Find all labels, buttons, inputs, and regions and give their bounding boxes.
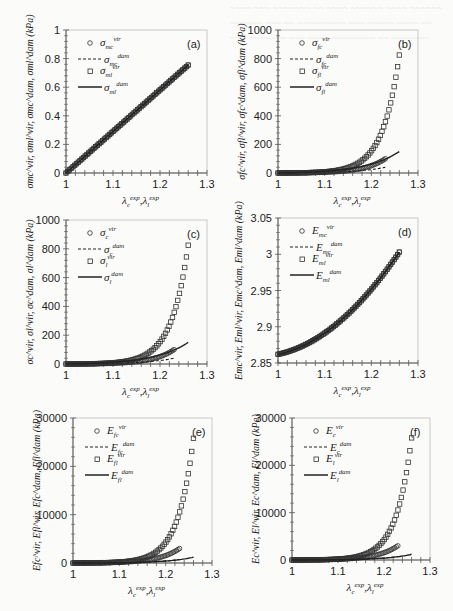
x-axis-label: λcexp,λlexp (346, 581, 384, 596)
svg-text:σfcvir: σfcvir (312, 35, 330, 50)
svg-text:Emcvir: Emcvir (311, 223, 335, 238)
svg-text:Elvir: Elvir (325, 451, 343, 466)
y-tick-label: 600 (254, 81, 272, 93)
y-tick-label: 0 (54, 358, 60, 370)
svg-text:σfldam: σfldam (316, 80, 337, 95)
svg-text:σmldam: σmldam (104, 80, 128, 95)
y-tick-label: 200 (42, 329, 60, 341)
svg-text:σmcvir: σmcvir (100, 35, 121, 50)
svg-text:Ecvir: Ecvir (325, 423, 344, 438)
y-tick-label: 0 (280, 554, 286, 566)
y-tick-label: 1000 (36, 214, 60, 226)
y-tick-label: 0.2 (45, 138, 60, 150)
panel-b: 11.11.21.302004006008001000λcexp,λlexpσf… (236, 23, 426, 209)
y-axis-label: Emc^vir, Eml^vir, Emc^dam, Eml^dam (kPa) (233, 200, 245, 380)
x-axis-label: λcexp,λlexp (333, 194, 371, 209)
series (276, 53, 402, 175)
x-axis-label: λcexp,λlexp (121, 194, 159, 209)
y-tick-label: 2.85 (251, 357, 272, 369)
svg-text:Efcvir: Efcvir (106, 423, 127, 438)
svg-text:σcvir: σcvir (100, 225, 116, 240)
legend-entry: σmcvir (88, 35, 122, 50)
y-tick-label: 0.8 (45, 53, 60, 65)
series (71, 436, 196, 565)
x-tick-label: 1 (275, 368, 281, 380)
x-tick-label: 1.2 (376, 565, 391, 577)
panel-d: 11.11.21.32.852.92.9533.05λcexp,λlexpEmc… (233, 200, 426, 399)
panel-c: 11.11.21.302004006008001000λcexp,λlexpσc… (24, 214, 215, 400)
y-tick-label: 0 (266, 167, 272, 179)
x-tick-label: 1.1 (112, 568, 127, 580)
y-tick-label: 600 (42, 272, 60, 284)
svg-text:σldam: σldam (104, 270, 123, 285)
svg-text:Eldam: Eldam (329, 468, 350, 483)
legend-entry: σfcvir (300, 35, 331, 50)
y-tick-label: 2.95 (251, 285, 272, 297)
x-tick-label: 1.2 (364, 178, 379, 190)
series (276, 250, 402, 357)
x-axis-label: λcexp,λlexp (121, 385, 159, 400)
y-tick-label: 0.4 (45, 110, 60, 122)
y-tick-label: 400 (42, 300, 60, 312)
legend-entry: σfldam (290, 80, 337, 95)
x-tick-label: 1 (70, 568, 76, 580)
x-tick-label: 1.1 (330, 565, 345, 577)
x-tick-label: 1.1 (317, 178, 332, 190)
legend-entry: Eldam (304, 468, 350, 483)
x-axis-label: λcexp,λlexp (333, 384, 371, 399)
panel-f: 11.11.21.30100002000030000λcexp,λlexpEc^… (250, 412, 438, 596)
x-tick-label: 1 (275, 178, 281, 190)
plot-frame (278, 30, 418, 173)
y-tick-label: 0 (61, 557, 67, 569)
x-tick-label: 1.1 (105, 369, 120, 381)
x-tick-label: 1 (289, 565, 295, 577)
y-tick-label: 0.6 (45, 81, 60, 93)
y-axis-label: Efc^vir, Efl^vir, Efc^dam, Efl^dam (kPa) (31, 409, 43, 572)
figure-six-panels: 11.11.21.300.20.40.60.81λcexp,λlexpσmc^v… (0, 0, 453, 611)
y-tick-label: 1000 (248, 24, 272, 36)
svg-text:σlvir: σlvir (100, 253, 115, 268)
y-tick-label: 200 (254, 138, 272, 150)
y-axis-label: σfc^vir, σfl^vir, σfc^dam, σfl^dam (kPa) (236, 23, 248, 180)
y-tick-label: 400 (254, 110, 272, 122)
legend-entry: Emlvir (300, 251, 333, 266)
x-tick-label: 1.3 (204, 568, 219, 580)
x-tick-label: 1.3 (410, 178, 425, 190)
legend-entry: Elvir (314, 451, 343, 466)
svg-text:Eflvir: Eflvir (106, 451, 125, 466)
x-axis-label: λcexp,λlexp (127, 584, 165, 599)
legend-entry: σcvir (88, 225, 117, 240)
panel-label: (b) (398, 38, 411, 50)
panel-label: (c) (187, 228, 200, 240)
x-tick-label: 1.1 (317, 368, 332, 380)
legend-entry: σldam (78, 270, 123, 285)
y-axis-label: σc^vir, σl^vir, σc^dam, σl^dam (kPa) (24, 219, 36, 365)
y-axis-label: Ec^vir, El^vir, Ec^dam, El^dam (kPa) (250, 413, 262, 565)
legend-entry: σmldam (78, 80, 128, 95)
y-tick-label: 1 (54, 24, 60, 36)
y-tick-label: 3 (266, 248, 272, 260)
y-axis-label: σmc^vir, σml^vir, σmc^dam, σml^dam (kPa) (24, 14, 36, 189)
plot-frame (66, 220, 207, 364)
series (276, 250, 402, 357)
x-tick-label: 1.2 (152, 178, 167, 190)
y-tick-label: 3.05 (251, 212, 272, 224)
x-tick-label: 1.2 (152, 369, 167, 381)
y-tick-label: 0 (54, 167, 60, 179)
x-tick-label: 1.3 (199, 369, 214, 381)
y-tick-label: 800 (254, 53, 272, 65)
x-tick-label: 1.3 (410, 368, 425, 380)
svg-text:Emldam: Emldam (315, 268, 341, 283)
x-tick-label: 1.2 (364, 368, 379, 380)
legend-entry: Efcvir (95, 423, 127, 438)
svg-text:σflvir: σflvir (312, 63, 329, 78)
x-tick-label: 1 (63, 369, 69, 381)
y-tick-label: 2.9 (257, 321, 272, 333)
x-tick-label: 1.2 (158, 568, 173, 580)
legend-entry: Emcvir (300, 223, 335, 238)
panel-e: 11.11.21.30100002000030000λcexp,λlexpEfc… (31, 409, 220, 599)
x-tick-label: 1.3 (422, 565, 437, 577)
x-tick-label: 1.3 (199, 178, 214, 190)
legend-entry: σflvir (300, 63, 329, 78)
legend-entry: Eflvir (95, 451, 125, 466)
